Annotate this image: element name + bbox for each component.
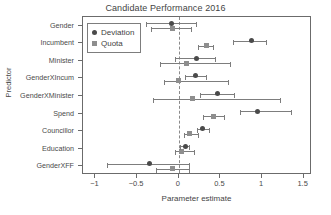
ci-cap-left (200, 93, 201, 98)
chart-container: Candidate Performance 2016 Predictor Gen… (0, 0, 331, 215)
y-axis-tick-label: GenderXIncum (26, 73, 74, 82)
y-axis-tick-label: Councillor (42, 126, 74, 135)
ci-cap-right (234, 93, 235, 98)
ci-cap-right (224, 115, 225, 120)
data-point-quota (184, 61, 189, 66)
legend-item-deviation: Deviation (92, 27, 134, 38)
ci-cap-left (146, 22, 147, 27)
legend-circle-marker-icon (92, 30, 97, 35)
ci-cap-right (213, 45, 214, 50)
y-axis-tick-label: GenderXFF (36, 161, 74, 170)
ci-cap-left (240, 110, 241, 115)
legend-label-quota: Quota (101, 38, 123, 49)
ci-cap-left (175, 57, 176, 62)
ci-cap-right (189, 163, 190, 168)
ci-cap-right (194, 150, 195, 155)
confidence-interval-line (175, 151, 196, 152)
ci-cap-left (160, 62, 161, 67)
ci-cap-right (228, 80, 229, 85)
x-axis-tick-label: −0.5 (129, 179, 144, 188)
ci-cap-left (164, 80, 165, 85)
x-axis-tick-label: −1 (90, 179, 99, 188)
ci-cap-right (198, 133, 199, 138)
legend-square-marker-icon (92, 41, 97, 46)
ci-cap-left (184, 133, 185, 138)
ci-cap-left (175, 150, 176, 155)
y-axis-labels: GenderIncumbentMinisterGenderXIncumGende… (0, 16, 80, 174)
data-point-quota (170, 166, 175, 171)
x-axis-tick-mark (261, 174, 262, 178)
data-point-deviation (200, 126, 205, 131)
data-point-deviation (147, 161, 152, 166)
ci-cap-left (197, 128, 198, 133)
confidence-interval-line (160, 63, 232, 64)
x-axis-ticks: −1−0.500.511.5 (82, 174, 311, 194)
x-axis-tick-label: 1 (259, 179, 263, 188)
data-point-quota (170, 26, 175, 31)
data-point-deviation (183, 144, 188, 149)
x-axis-tick-mark (136, 174, 137, 178)
ci-cap-right (209, 128, 210, 133)
x-axis-tick-mark (219, 174, 220, 178)
ci-cap-right (215, 57, 216, 62)
ci-cap-right (266, 40, 267, 45)
ci-cap-left (153, 98, 154, 103)
ci-cap-right (191, 27, 192, 32)
chart-title: Candidate Performance 2016 (0, 3, 331, 13)
ci-cap-left (233, 40, 234, 45)
ci-cap-right (280, 98, 281, 103)
legend-item-quota: Quota (92, 38, 134, 49)
ci-cap-right (189, 168, 190, 173)
ci-cap-left (180, 145, 181, 150)
data-point-quota (211, 114, 216, 119)
data-point-quota (190, 96, 195, 101)
x-axis-tick-mark (178, 174, 179, 178)
x-axis-tick-mark (94, 174, 95, 178)
ci-cap-right (206, 75, 207, 80)
chart-legend: Deviation Quota (87, 23, 141, 53)
y-axis-tick-label: Gender (50, 20, 74, 29)
x-axis-title: Parameter estimate (82, 194, 311, 203)
ci-cap-left (107, 163, 108, 168)
confidence-interval-line (164, 81, 229, 82)
ci-cap-left (185, 75, 186, 80)
ci-cap-left (198, 45, 199, 50)
data-point-deviation (193, 73, 198, 78)
ci-cap-right (196, 22, 197, 27)
ci-cap-left (156, 168, 157, 173)
y-axis-tick-label: Incumbent (40, 38, 74, 47)
x-axis-tick-mark (303, 174, 304, 178)
data-point-deviation (249, 38, 254, 43)
ci-cap-right (291, 110, 292, 115)
y-axis-tick-label: Education (42, 143, 74, 152)
confidence-interval-line (153, 99, 281, 100)
x-axis-tick-label: 0.5 (214, 179, 224, 188)
x-axis-tick-label: 1.5 (297, 179, 307, 188)
y-axis-tick-label: Spend (53, 108, 74, 117)
data-point-quota (187, 131, 192, 136)
ci-cap-left (151, 27, 152, 32)
data-point-quota (204, 43, 209, 48)
data-point-deviation (215, 91, 220, 96)
ci-cap-left (203, 115, 204, 120)
legend-label-deviation: Deviation (101, 27, 134, 38)
y-axis-tick-label: Minister (49, 55, 74, 64)
ci-cap-right (230, 62, 231, 67)
y-axis-tick-label: GenderXMinister (20, 91, 74, 100)
data-point-deviation (255, 109, 260, 114)
data-point-deviation (169, 21, 174, 26)
confidence-interval-line (240, 111, 292, 112)
ci-cap-right (189, 145, 190, 150)
x-axis-tick-label: 0 (176, 179, 180, 188)
data-point-quota (176, 78, 181, 83)
data-point-deviation (194, 56, 199, 61)
